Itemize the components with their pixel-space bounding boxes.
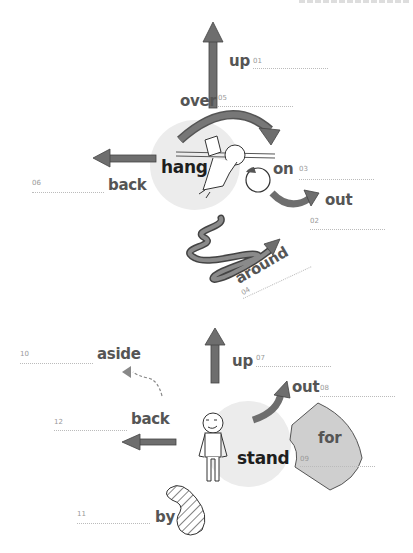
word-over: over: [180, 92, 216, 110]
num-03: 03: [299, 165, 308, 173]
word-by: by: [155, 508, 175, 526]
out-arrow-icon-1: [272, 190, 319, 206]
word-aside: aside: [97, 345, 141, 363]
num-12: 12: [54, 418, 63, 426]
answer-line-01[interactable]: [253, 68, 328, 69]
word-for: for: [318, 429, 341, 447]
center-word-hang: hang: [161, 157, 208, 177]
answer-line-12[interactable]: [54, 430, 127, 431]
back-arrow-icon-2: [122, 434, 176, 450]
num-10: 10: [20, 350, 29, 358]
num-02: 02: [310, 217, 319, 225]
word-on: on: [273, 160, 293, 178]
word-back-1: back: [108, 176, 147, 194]
up-arrow-icon-2: [205, 328, 225, 383]
center-word-stand: stand: [237, 448, 290, 468]
word-out-1: out: [325, 191, 352, 209]
num-11: 11: [77, 510, 86, 518]
answer-line-07[interactable]: [256, 366, 331, 367]
answer-line-05[interactable]: [218, 106, 293, 107]
word-out-2: out: [292, 378, 319, 396]
word-up-1: up: [229, 52, 250, 70]
num-06: 06: [32, 179, 41, 187]
back-arrow-icon-1: [93, 149, 156, 167]
num-05: 05: [218, 94, 227, 102]
word-back-2: back: [131, 410, 170, 428]
num-01: 01: [253, 57, 262, 65]
num-07: 07: [256, 354, 265, 362]
answer-line-11[interactable]: [77, 523, 150, 524]
answer-line-09[interactable]: [300, 466, 375, 467]
num-09: 09: [300, 455, 309, 463]
num-08: 08: [320, 384, 329, 392]
word-up-2: up: [232, 352, 253, 370]
diagram-graphics: [0, 0, 413, 553]
answer-line-10[interactable]: [20, 363, 93, 364]
answer-line-03[interactable]: [299, 179, 374, 180]
answer-line-02[interactable]: [310, 229, 385, 230]
answer-line-06[interactable]: [32, 192, 104, 193]
answer-line-08[interactable]: [320, 396, 395, 397]
aside-arrow-icon: [122, 366, 162, 396]
